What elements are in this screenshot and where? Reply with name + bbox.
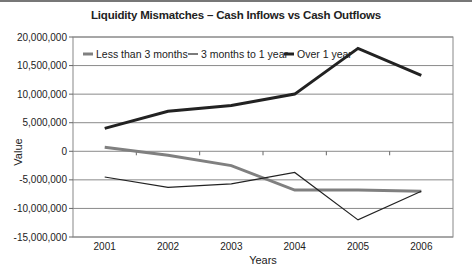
x-axis-title: Years <box>249 254 277 266</box>
gridlines <box>69 37 453 237</box>
y-tick-label: 5,000,000 <box>23 117 68 128</box>
legend-label: Less than 3 months <box>96 48 188 60</box>
x-tick-label: 2001 <box>94 241 117 252</box>
x-tick-label: 2002 <box>157 241 180 252</box>
legend-label: Over 1 year <box>297 48 352 60</box>
y-tick-label: -10,000,000 <box>14 203 68 214</box>
x-tick-label: 2005 <box>347 241 370 252</box>
legend: Less than 3 months3 months to 1 yearOver… <box>83 48 352 60</box>
x-tick-label: 2006 <box>410 241 433 252</box>
x-tick-label: 2003 <box>220 241 243 252</box>
y-axis-title: Value <box>12 138 24 165</box>
y-tick-label: 0 <box>61 146 67 157</box>
x-axis-ticks: 200120022003200420052006 <box>94 241 433 252</box>
y-tick-label: -5,000,000 <box>19 174 67 185</box>
plot-area <box>73 37 453 237</box>
y-tick-label: -15,000,000 <box>14 232 68 243</box>
y-tick-label: 20,000,000 <box>17 32 67 43</box>
y-tick-label: 10,000,000 <box>17 89 67 100</box>
x-tick-label: 2004 <box>284 241 307 252</box>
y-axis-ticks: 20,000,00010,500,00010,000,0005,000,0000… <box>14 32 68 243</box>
series-lines <box>105 48 422 220</box>
legend-label: 3 months to 1 year <box>201 48 288 60</box>
series-line-2 <box>105 48 422 128</box>
y-tick-label: 10,500,000 <box>17 60 67 71</box>
line-chart: 20,000,00010,500,00010,000,0005,000,0000… <box>0 0 472 276</box>
